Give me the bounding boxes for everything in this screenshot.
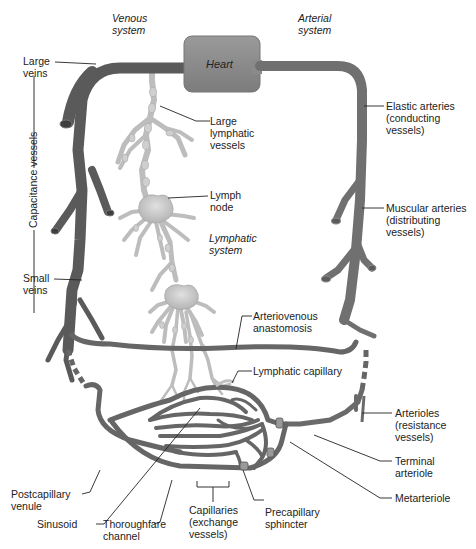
label-metarteriole: Metarteriole [395, 492, 450, 504]
label-sinusoid: Sinusoid [37, 518, 77, 530]
arteriole [280, 390, 362, 424]
lymph-node-lower [165, 285, 199, 310]
label-capillaries: Capillaries (exchange vessels) [189, 504, 238, 540]
label-muscular-arteries: Muscular arteries (distributing vessels) [386, 202, 467, 238]
heart-label: Heart [206, 58, 233, 70]
label-lymphatic-capillary: Lymphatic capillary [253, 365, 342, 377]
label-capacitance-vessels: Capacitance vessels [27, 132, 39, 228]
arterial-system-label: Arterial system [298, 12, 331, 36]
label-arteriovenous-anastomosis: Arteriovenous anastomosis [253, 310, 318, 334]
capillaries-bracket [197, 481, 229, 502]
lymph-node-upper [139, 195, 173, 223]
label-precapillary-sphincter: Precapillary sphincter [265, 506, 320, 530]
arterial-system [260, 66, 374, 336]
label-small-veins: Small veins [23, 272, 49, 296]
label-lymphatic-system: Lymphatic system [209, 232, 257, 256]
dashed-vessel-right [362, 350, 366, 390]
label-arterioles: Arterioles (resistance vessels) [395, 407, 446, 443]
label-large-veins: Large veins [23, 55, 50, 79]
label-thoroughfare-channel: Thoroughfare channel [103, 518, 166, 542]
capillary-bed [86, 385, 286, 468]
label-elastic-arteries: Elastic arteries (conducting vessels) [386, 100, 455, 136]
label-lymph-node: Lymph node [210, 189, 241, 213]
label-postcapillary-venule: Postcapillary venule [11, 488, 71, 512]
label-terminal-arteriole: Terminal arteriole [395, 455, 435, 479]
label-large-lymphatic-vessels: Large lymphatic vessels [210, 115, 254, 151]
venous-system-label: Venous system [112, 12, 147, 36]
arteriovenous-anastomosis [72, 335, 356, 352]
